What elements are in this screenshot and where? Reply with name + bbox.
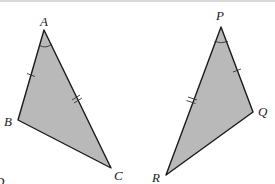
vertex-label-c: C [114, 168, 123, 183]
triangle-abc-shape [18, 30, 111, 168]
vertex-label-b: B [4, 114, 12, 129]
triangle-pqr: P Q R [151, 8, 268, 184]
vertex-label-p: P [215, 8, 224, 23]
vertex-label-a: A [39, 14, 48, 29]
congruent-triangles-diagram: A B C P Q R D [0, 0, 275, 184]
cropped-label-fragment: D [0, 174, 5, 184]
vertex-label-q: Q [258, 104, 268, 119]
triangle-pqr-shape [166, 27, 253, 175]
triangle-abc: A B C [4, 14, 123, 183]
vertex-label-r: R [151, 170, 160, 184]
